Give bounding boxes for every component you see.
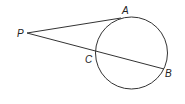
label-b: B (165, 68, 172, 79)
label-p: P (17, 28, 24, 39)
label-a: A (121, 5, 129, 16)
geometry-diagram: P A C B (0, 0, 185, 104)
label-c: C (85, 54, 93, 65)
diagram-svg: P A C B (0, 0, 185, 104)
tangent-line-pa (27, 18, 121, 33)
circle (96, 17, 168, 89)
secant-line-pb (27, 33, 164, 69)
